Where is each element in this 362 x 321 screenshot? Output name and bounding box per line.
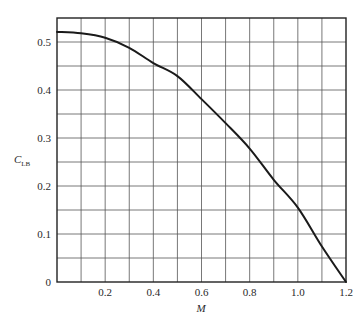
grid-lines: [57, 18, 346, 282]
x-tick-label: 0.2: [98, 286, 112, 298]
y-axis-title: CLB: [14, 153, 31, 168]
y-tick-label: 0.5: [37, 36, 51, 48]
y-tick-label: 0: [46, 276, 52, 288]
line-chart: 0.20.40.60.81.01.2 00.10.20.30.40.5 M CL…: [0, 0, 362, 321]
chart-container: 0.20.40.60.81.01.2 00.10.20.30.40.5 M CL…: [0, 0, 362, 321]
y-tick-label: 0.1: [37, 228, 51, 240]
y-tick-label: 0.2: [37, 180, 51, 192]
y-axis-tick-labels: 00.10.20.30.40.5: [37, 36, 51, 288]
y-tick-label: 0.4: [37, 84, 51, 96]
x-tick-label: 0.4: [146, 286, 160, 298]
x-tick-label: 1.0: [291, 286, 305, 298]
x-tick-label: 0.6: [195, 286, 209, 298]
x-tick-label: 1.2: [339, 286, 353, 298]
x-axis-title: M: [195, 302, 206, 314]
y-axis-title-subscript: LB: [21, 160, 30, 168]
y-tick-label: 0.3: [37, 132, 51, 144]
x-axis-tick-labels: 0.20.40.60.81.01.2: [98, 286, 353, 298]
x-tick-label: 0.8: [243, 286, 257, 298]
